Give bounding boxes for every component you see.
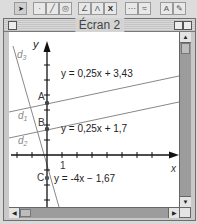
point-b[interactable] — [45, 127, 49, 131]
line-tool-button[interactable]: ╱ — [46, 2, 59, 15]
pen-icon: ✎ — [176, 5, 183, 13]
angle-construct-icon: ∠ — [81, 5, 88, 13]
point-c[interactable] — [45, 176, 49, 180]
scroll-right-arrow-icon[interactable]: ▶ — [168, 208, 179, 218]
y-axis-label: y — [32, 38, 40, 50]
transform-icon: Λ — [95, 5, 100, 13]
line-d1-name: d1 — [18, 110, 28, 122]
trace-icon: ≈ — [142, 5, 146, 13]
equation-d1: y = 0,25x + 1,7 — [61, 123, 128, 134]
circle-tool-button[interactable]: ◎ — [59, 2, 72, 15]
transform-tool-button[interactable]: Λ — [91, 2, 104, 15]
equation-d3: y = 0,25x + 3,43 — [61, 68, 133, 79]
line-d3[interactable] — [9, 76, 179, 112]
x-axis-label: x — [170, 163, 177, 174]
point-tool-button[interactable]: · — [33, 2, 46, 15]
line-d3-name: d3 — [17, 49, 27, 61]
point-icon: · — [38, 5, 41, 13]
drawing-canvas[interactable]: y x 1 A B C d3 d1 d2 y = 0,25x + 3,43 y … — [9, 32, 179, 207]
arrow-pointer-icon: ➤ — [18, 5, 24, 12]
macro-icon: ⋯ — [128, 5, 136, 13]
point-c-label: C — [37, 172, 44, 183]
scroll-up-arrow-icon[interactable]: ▲ — [180, 32, 191, 43]
window-titlebar[interactable]: Écran 2 — [4, 19, 195, 32]
vertical-scrollbar[interactable]: ▲ ▼ — [179, 32, 191, 207]
resize-grow-box-icon[interactable] — [179, 207, 191, 218]
pointer-tool-button[interactable]: ➤ — [14, 2, 27, 15]
circle-icon: ◎ — [62, 5, 69, 13]
line-d2[interactable] — [13, 46, 59, 207]
horizontal-scroll-thumb[interactable] — [20, 209, 31, 217]
text-tool-button[interactable]: A — [160, 2, 173, 15]
x-axis-arrow-icon — [169, 152, 179, 159]
scroll-down-arrow-icon[interactable]: ▼ — [180, 196, 191, 207]
construct-tool-button[interactable]: ∠ — [78, 2, 91, 15]
toolbar: ➤ · ╱ ◎ ∠ Λ X ⋯ ≈ A ✎ — [0, 0, 197, 18]
scroll-left-arrow-icon[interactable]: ◀ — [9, 208, 20, 218]
measure-tool-button[interactable]: X — [104, 2, 117, 15]
unit-label: 1 — [60, 160, 66, 171]
trace-tool-button[interactable]: ≈ — [138, 2, 151, 15]
draw-tool-button[interactable]: ✎ — [173, 2, 186, 15]
vertical-scroll-thumb[interactable] — [181, 43, 190, 54]
graph-window: Écran 2 — [3, 18, 196, 221]
window-title: Écran 2 — [75, 18, 124, 32]
zoom-box-icon[interactable] — [174, 21, 183, 30]
point-a-label: A — [38, 91, 45, 102]
macro-tool-button[interactable]: ⋯ — [125, 2, 138, 15]
point-a[interactable] — [45, 101, 49, 105]
line-icon: ╱ — [50, 5, 55, 13]
text-label-icon: A — [164, 5, 169, 13]
line-d2-name: d2 — [18, 135, 28, 147]
horizontal-scrollbar[interactable]: ◀ ▶ — [9, 207, 179, 218]
close-box-icon[interactable] — [8, 21, 17, 30]
point-b-label: B — [38, 117, 45, 128]
collapse-box-icon[interactable] — [183, 21, 192, 30]
equation-d2: y = -4x − 1,67 — [54, 173, 116, 184]
x-measure-icon: X — [108, 5, 113, 13]
y-axis-arrow-icon — [44, 41, 51, 52]
